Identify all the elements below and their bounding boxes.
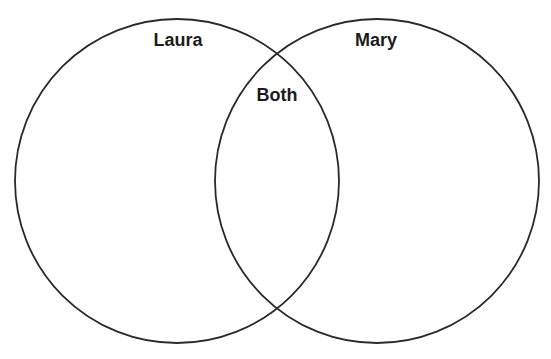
label-laura: Laura <box>153 31 202 49</box>
circle-mary <box>215 19 539 343</box>
circle-laura <box>15 19 339 343</box>
label-both: Both <box>257 86 298 104</box>
label-mary: Mary <box>355 31 397 49</box>
venn-canvas <box>0 0 551 359</box>
